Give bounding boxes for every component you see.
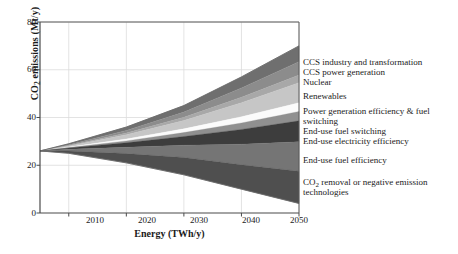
legend-label-5: switching	[303, 116, 458, 126]
legend-label-0: CCS industry and transformation	[303, 57, 458, 67]
legend-label-10: technologies	[303, 187, 458, 197]
legend-label-8: End-use fuel efficiency	[303, 155, 458, 165]
legend-label-2: Nuclear	[303, 77, 458, 87]
legend-label-3: Renewables	[303, 91, 458, 101]
legend-label-7: End-use electricity efficiency	[303, 136, 458, 146]
legend-label-4: Power generation efficiency & fuel	[303, 106, 458, 116]
legend-label-9-prefix: CO	[303, 177, 316, 187]
figure-co2-emissions-wedge-chart: CO2 emissions (Mt/y) 80 60 40 20 0 2010 …	[0, 0, 458, 254]
legend-label-9-text: removal or negative emission	[319, 177, 427, 187]
